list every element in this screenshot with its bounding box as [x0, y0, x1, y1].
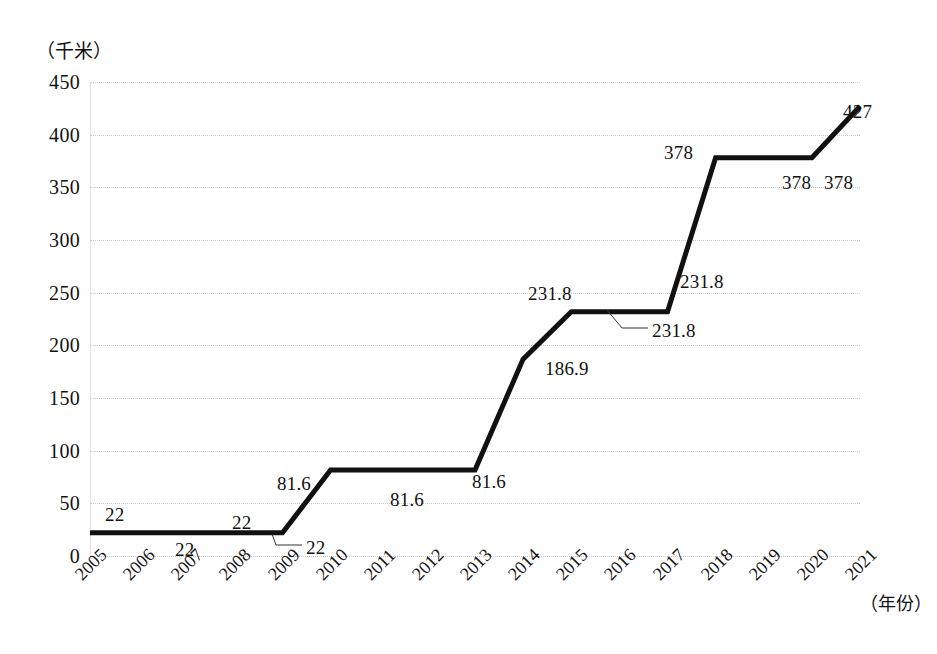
leader-line	[272, 534, 302, 545]
data-point-label: 378	[782, 172, 811, 194]
line-chart: （千米） 050100150200250300350400450 2005200…	[0, 0, 937, 654]
data-point-label: 81.6	[277, 473, 311, 495]
leader-lines	[0, 0, 937, 654]
data-point-label: 22	[306, 537, 325, 559]
data-point-label: 378	[824, 172, 853, 194]
data-point-label: 22	[232, 512, 251, 534]
data-point-label: 81.6	[390, 489, 424, 511]
data-point-label: 81.6	[472, 471, 506, 493]
data-point-label: 22	[175, 539, 194, 561]
leader-line	[607, 310, 648, 328]
data-point-label: 231.8	[652, 320, 696, 342]
data-point-labels: 2222222281.681.681.6186.9231.8231.8231.8…	[0, 0, 937, 654]
data-point-label: 427	[843, 101, 872, 123]
data-point-label: 231.8	[680, 271, 724, 293]
data-point-label: 378	[664, 142, 693, 164]
data-point-label: 186.9	[545, 358, 589, 380]
data-point-label: 231.8	[528, 283, 572, 305]
data-point-label: 22	[105, 504, 124, 526]
